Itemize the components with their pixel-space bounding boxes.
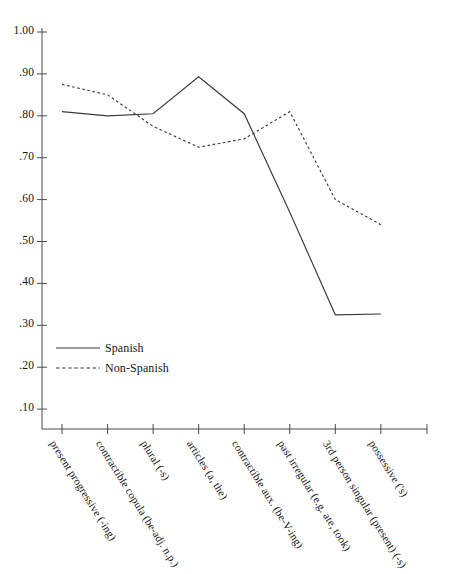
y-tick-label: .50 xyxy=(0,234,34,246)
y-tick-label: .20 xyxy=(0,359,34,371)
y-tick-label: .30 xyxy=(0,317,34,329)
legend-label-non-spanish: Non-Spanish xyxy=(105,361,169,376)
y-tick-label: .90 xyxy=(0,66,34,78)
legend-label-spanish: Spanish xyxy=(105,341,144,356)
chart-axes xyxy=(37,28,427,434)
chart-series xyxy=(62,77,381,315)
y-tick-label: .70 xyxy=(0,150,34,162)
y-tick-label: .60 xyxy=(0,192,34,204)
y-tick-label: .80 xyxy=(0,108,34,120)
legend-swatches xyxy=(56,348,100,368)
chart-figure: 1.00.90.80.70.60.50.40.30.20.10 present … xyxy=(0,0,468,574)
y-tick-label: 1.00 xyxy=(0,24,34,36)
y-tick-label: .40 xyxy=(0,275,34,287)
y-tick-label: .10 xyxy=(0,401,34,413)
series-line-spanish xyxy=(62,77,381,315)
series-line-non-spanish xyxy=(62,84,381,224)
